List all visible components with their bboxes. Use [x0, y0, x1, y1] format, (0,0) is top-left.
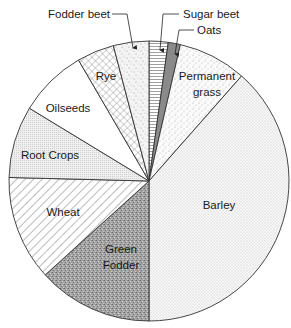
pie-slices [9, 41, 289, 321]
label-green-fodder-line2: Fodder [103, 259, 140, 271]
label-oats: Oats [197, 24, 222, 36]
label-sugar-beet: Sugar beet [183, 8, 240, 20]
label-fodder-beet: Fodder beet [48, 8, 111, 20]
label-rye: Rye [96, 70, 116, 82]
label-permanent-grass-line2: grass [193, 86, 221, 98]
label-barley: Barley [203, 199, 236, 211]
label-root-crops: Root Crops [21, 149, 79, 161]
label-green-fodder: Green [105, 243, 137, 255]
pie-chart: Permanent grass Barley Green Fodder Whea… [0, 0, 291, 328]
label-wheat: Wheat [46, 206, 80, 218]
label-oilseeds: Oilseeds [46, 102, 91, 114]
label-permanent-grass: Permanent [179, 70, 236, 82]
